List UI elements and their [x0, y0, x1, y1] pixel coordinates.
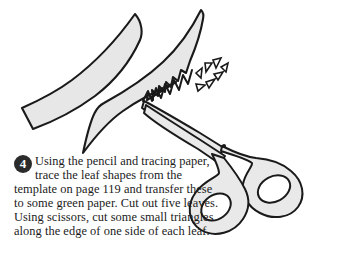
scissors-pivot-screw: [222, 144, 226, 148]
step-number-label: 4: [14, 155, 32, 173]
illustration-page: .ink { stroke: #1a1a1a; stroke-linejoin:…: [0, 0, 337, 274]
step-text-content: Using the pencil and tracing paper, trac…: [14, 154, 218, 238]
triangle-cuttings: [196, 58, 228, 91]
step-body-text: 4Using the pencil and tracing paper, tra…: [14, 154, 220, 239]
step-caption: 4Using the pencil and tracing paper, tra…: [14, 154, 220, 239]
step-number-badge: 4: [14, 155, 33, 181]
